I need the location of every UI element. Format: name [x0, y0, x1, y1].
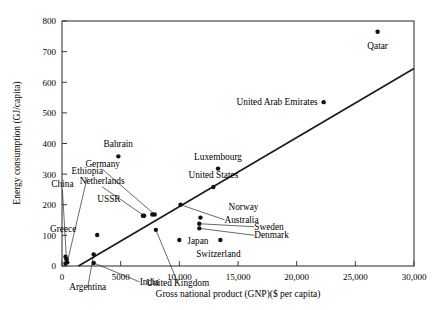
data-point-norway — [198, 215, 202, 219]
point-label-luxembourg: Luxembourg — [194, 152, 242, 162]
y-tick-label: 200 — [43, 200, 57, 210]
leader-line-ethiopia — [67, 177, 87, 262]
data-point-switzerland — [218, 238, 222, 242]
point-label-united-arab-emirates: United Arab Emirates — [237, 97, 318, 107]
point-label-switzerland: Switzerland — [196, 249, 241, 259]
y-tick-label: 500 — [43, 108, 57, 118]
x-tick-label: 15,000 — [226, 272, 251, 282]
y-tick-label: 0 — [52, 261, 57, 271]
energy-gnp-scatter-figure: 0500010,00015,00020,00025,00030,000 0100… — [0, 0, 445, 310]
data-point-united-kingdom — [154, 228, 158, 232]
point-label-india: India — [140, 277, 159, 287]
x-tick-label: 30,000 — [402, 272, 427, 282]
point-label-norway: Norway — [228, 202, 258, 212]
point-label-netherlands: Netherlands — [80, 176, 125, 186]
chart-canvas: 0500010,00015,00020,00025,00030,000 0100… — [0, 0, 445, 310]
data-point-greece — [95, 233, 99, 237]
data-point-ussr — [141, 214, 145, 218]
data-point-argentina — [91, 252, 95, 256]
leader-line-denmark — [199, 228, 254, 235]
point-label-argentina: Argentina — [69, 282, 106, 292]
data-point — [150, 212, 154, 216]
point-label-bahrain: Bahrain — [104, 139, 134, 149]
x-tick-label: 25,000 — [343, 272, 368, 282]
point-label-denmark: Denmark — [254, 230, 289, 240]
y-tick-label: 400 — [43, 139, 57, 149]
data-point-united-arab-emirates — [321, 100, 325, 104]
point-label-greece: Greece — [50, 224, 76, 234]
y-tick-label: 300 — [43, 170, 57, 180]
x-tick-label: 20,000 — [284, 272, 309, 282]
data-point-japan — [177, 238, 181, 242]
point-label-japan: Japan — [187, 236, 209, 246]
point-label-ethiopia: Ethiopia — [72, 166, 104, 176]
y-tick-label: 800 — [43, 16, 57, 26]
data-point-india — [91, 261, 95, 265]
x-tick-label: 0 — [60, 272, 65, 282]
x-tick-labels: 0500010,00015,00020,00025,00030,000 — [60, 272, 427, 282]
point-label-china: China — [51, 179, 73, 189]
label-leader-lines — [62, 170, 254, 288]
data-point-denmark — [197, 226, 201, 230]
point-label-ussr: USSR — [97, 194, 121, 204]
y-tick-label: 700 — [43, 47, 57, 57]
point-label-qatar: Qatar — [367, 41, 389, 51]
point-label-united-states: United States — [188, 170, 238, 180]
data-point — [63, 261, 67, 265]
data-point-united-states — [211, 185, 215, 189]
data-point-australia — [178, 203, 182, 207]
data-point — [63, 255, 67, 259]
data-point-sweden — [197, 222, 201, 226]
data-point-labels: QatarUnited Arab EmiratesBahrainLuxembou… — [50, 41, 389, 293]
data-point-qatar — [375, 30, 379, 34]
x-axis-title: Gross national product (GNP)($ per capit… — [156, 289, 321, 300]
y-tick-label: 600 — [43, 78, 57, 88]
y-axis-title: Energy consumption (GJ/capita) — [12, 81, 23, 204]
